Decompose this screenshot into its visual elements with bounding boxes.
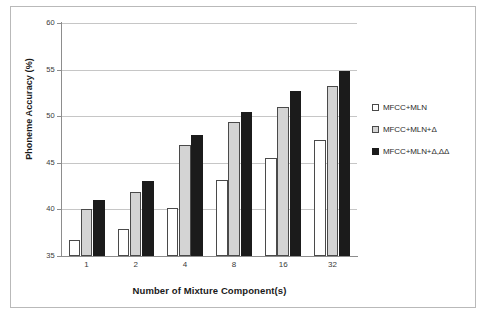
legend-swatch-icon [372,148,379,155]
bar [69,240,81,256]
bar [290,91,302,256]
bar-group [167,23,203,256]
x-axis-title: Number of Mixture Component(s) [62,285,357,296]
bar [191,135,203,256]
bar [277,107,289,256]
bar [265,158,277,256]
y-tick-label: 35 [28,251,55,261]
x-tick-label: 2 [116,260,156,269]
bar [339,71,351,256]
chart-page: 354045505560 12481632 Number of Mixture … [0,0,489,322]
legend-label: MFCC+MLN [383,103,427,112]
bar-group [69,23,105,256]
bar [81,209,93,256]
bar [130,192,142,256]
x-tick-label: 8 [214,260,254,269]
x-axis-line [61,256,358,257]
legend-swatch-icon [372,104,379,111]
bar [167,208,179,256]
legend-item: MFCC+MLN+Δ,ΔΔ [372,140,480,162]
bar [142,181,154,256]
x-tick-label: 32 [312,260,352,269]
y-axis-title: Phoneme Accuracy (%) [24,34,34,184]
y-tick-mark [57,23,61,24]
chart-legend: MFCC+MLNMFCC+MLN+ΔMFCC+MLN+Δ,ΔΔ [372,96,480,162]
bar-group [314,23,350,256]
y-tick-mark [57,209,61,210]
y-tick-label: 40 [28,204,55,214]
bar [314,140,326,257]
bar-group [216,23,252,256]
bar [327,86,339,256]
y-tick-mark [57,70,61,71]
y-tick-label-text: 50 [33,111,55,120]
bar-group [265,23,301,256]
bar [228,122,240,256]
bar-group [118,23,154,256]
x-tick-label: 4 [165,260,205,269]
y-tick-label-text: 60 [33,18,55,27]
legend-swatch-icon [372,126,379,133]
y-tick-mark [57,256,61,257]
bar [241,112,253,256]
bar-groups [62,23,357,256]
x-tick-label: 1 [67,260,107,269]
y-tick-mark [57,163,61,164]
legend-label: MFCC+MLN+Δ,ΔΔ [383,147,449,156]
y-tick-mark [57,116,61,117]
legend-item: MFCC+MLN [372,96,480,118]
y-tick-label-text: 40 [33,204,55,213]
bar [93,200,105,256]
legend-item: MFCC+MLN+Δ [372,118,480,140]
bar [118,229,130,256]
y-tick-label-text: 55 [33,65,55,74]
y-tick-label-text: 45 [33,158,55,167]
x-tick-label: 16 [263,260,303,269]
legend-label: MFCC+MLN+Δ [383,125,437,134]
bar [216,180,228,256]
bar [179,145,191,256]
y-tick-label-text: 35 [33,251,55,260]
y-tick-label: 60 [28,18,55,28]
